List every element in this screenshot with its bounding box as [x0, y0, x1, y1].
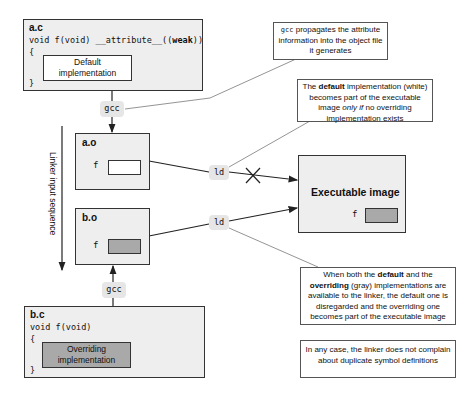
- open-brace-b: {: [30, 334, 35, 345]
- callout-default-implementation: The default implementation (white) becom…: [297, 79, 433, 122]
- executable-image-box: Executable image f: [298, 155, 406, 233]
- overriding-symbol-slot: [108, 239, 141, 254]
- close-brace-b: }: [30, 365, 35, 376]
- object-file-a-o: a.o f: [75, 133, 150, 190]
- close-brace: }: [29, 78, 34, 89]
- symbol-f-executable: f: [352, 209, 357, 219]
- signature-prefix: void f(void) __attribute__((: [29, 35, 172, 45]
- gcc-mono-text: gcc: [281, 26, 294, 34]
- gcc-tool-label-bottom: gcc: [102, 282, 126, 298]
- open-brace: {: [29, 47, 34, 58]
- callout-gcc-propagates: gcc propagates the attribute information…: [273, 22, 388, 60]
- callout-text: In any case, the linker does not complai…: [306, 345, 451, 365]
- object-file-b-o: b.o f: [75, 208, 150, 265]
- source-file-b-c: b.c void f(void) { Overriding implementa…: [24, 306, 205, 378]
- callout-bold: default: [378, 270, 404, 279]
- callout-no-complaint: In any case, the linker does not complai…: [300, 340, 456, 378]
- executable-symbol-slot: [365, 208, 398, 223]
- symbol-f-a-o: f: [93, 160, 98, 170]
- overriding-implementation-block: Overriding implementation: [42, 342, 131, 368]
- impl-label-line2: implementation: [44, 68, 131, 79]
- callout-text: When both the: [323, 270, 377, 279]
- signature-suffix: )): [193, 35, 203, 45]
- impl-label-line2-b: implementation: [43, 355, 130, 366]
- filename-a-o: a.o: [82, 137, 96, 148]
- callout-both-available: When both the default and the overriding…: [300, 267, 456, 325]
- linker-input-sequence-label: Linker input sequence: [48, 152, 58, 235]
- filename-b-c: b.c: [30, 309, 44, 320]
- ld-tool-label-bottom: ld: [209, 215, 229, 230]
- signature-a-c: void f(void) __attribute__((weak)): [29, 35, 203, 46]
- ld-tool-label-top: ld: [209, 165, 229, 180]
- impl-label-line1: Default: [44, 57, 131, 68]
- executable-image-title: Executable image: [311, 186, 400, 198]
- callout-italic: only if: [342, 103, 363, 112]
- default-implementation-block: Default implementation: [43, 55, 132, 81]
- symbol-f-b-o: f: [93, 240, 98, 250]
- callout-text: and the: [404, 270, 433, 279]
- callout-bold: overriding: [310, 281, 349, 290]
- signature-b-c: void f(void): [30, 322, 91, 333]
- callout-text: propagates the attribute information int…: [278, 25, 382, 55]
- callout-text: The: [303, 82, 319, 91]
- impl-label-line1-b: Overriding: [43, 344, 130, 355]
- gcc-tool-label-top: gcc: [100, 101, 124, 117]
- callout-bold: default: [319, 82, 345, 91]
- default-symbol-slot: [108, 160, 141, 175]
- filename-b-o: b.o: [82, 212, 97, 223]
- source-file-a-c: a.c void f(void) __attribute__((weak)) {…: [23, 19, 203, 91]
- weak-attribute: weak: [172, 35, 192, 45]
- filename-a-c: a.c: [29, 22, 43, 33]
